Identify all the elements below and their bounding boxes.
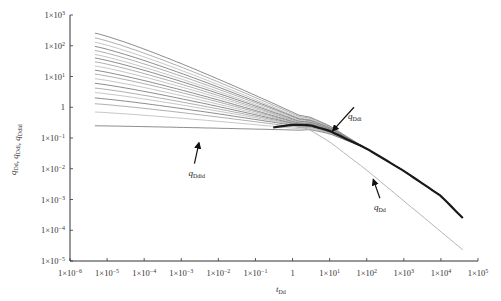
x-tick-label: 1×10−3: [169, 268, 193, 278]
annotation-label: qDdid: [188, 168, 205, 179]
y-tick-label: 1×103: [44, 10, 65, 20]
ddid-curve: [95, 42, 463, 218]
x-tick-label: 1×10−2: [206, 268, 230, 278]
dd-curve: [293, 123, 463, 250]
ddid-curve: [95, 74, 463, 218]
y-axis-title: qDd, qDdi, qDdid: [8, 124, 23, 175]
chart: 1×10−61×10−51×10−41×10−31×10−21×10−111×1…: [0, 0, 501, 301]
y-tick-label: 1: [61, 102, 65, 112]
ddid-curve: [95, 112, 463, 218]
x-tick-label: 1: [290, 268, 294, 278]
y-tick-label: 1×10−2: [41, 164, 65, 174]
y-tick-label: 1×102: [44, 41, 65, 51]
annotation-arrow: [373, 179, 380, 198]
x-tick-label: 1×10−5: [95, 268, 119, 278]
y-tick-label: 1×10−4: [41, 225, 65, 235]
curves-layer: [95, 33, 463, 250]
x-tick-label: 1×104: [431, 268, 452, 278]
ddid-curve: [95, 83, 463, 218]
x-tick-label: 1×102: [356, 268, 377, 278]
y-tick-label: 1×101: [44, 72, 65, 82]
annotation-label: qDdi: [348, 111, 362, 122]
axes-layer: [70, 15, 478, 261]
annotation-arrow: [194, 143, 199, 164]
annotation-label: qDd: [374, 202, 386, 213]
x-tick-label: 1×105: [468, 268, 489, 278]
x-tick-label: 1×10−1: [243, 268, 267, 278]
ddid-curve: [95, 51, 463, 219]
x-tick-label: 1×10−4: [132, 268, 156, 278]
x-tick-label: 1×103: [394, 268, 415, 278]
ddid-curve: [95, 55, 463, 219]
y-tick-label: 1×10−3: [41, 195, 65, 205]
x-tick-label: 1×101: [319, 268, 340, 278]
x-tick-label: 1×10−6: [58, 268, 82, 278]
ddid-curve: [95, 38, 463, 218]
ticks-layer: 1×10−61×10−51×10−41×10−31×10−21×10−111×1…: [41, 10, 488, 278]
y-tick-label: 1×10−5: [41, 256, 65, 266]
y-tick-label: 1×10−1: [41, 133, 65, 143]
x-axis-title: tDd: [276, 284, 286, 295]
